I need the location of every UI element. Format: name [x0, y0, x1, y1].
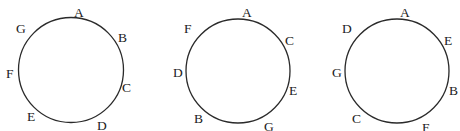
- point-label: E: [289, 83, 297, 98]
- point-label: G: [332, 65, 342, 80]
- point-label: C: [285, 33, 294, 48]
- point-label: F: [184, 21, 192, 36]
- point-label: D: [97, 118, 107, 131]
- circle-outline: [345, 19, 449, 123]
- point-label: F: [6, 66, 14, 81]
- circle-diagram-1: A B C D E F G: [6, 5, 131, 131]
- point-label: B: [449, 83, 458, 98]
- point-label: G: [16, 21, 26, 36]
- point-label: B: [194, 111, 203, 126]
- point-label: D: [173, 65, 183, 80]
- diagram-canvas: A B C D E F G A C E G B D F A E B F C G: [0, 0, 460, 131]
- point-label: G: [264, 119, 274, 131]
- point-label: C: [352, 111, 361, 126]
- circle-outline: [186, 19, 290, 123]
- point-label: B: [118, 30, 127, 45]
- point-label: F: [422, 120, 430, 131]
- circle-arrangements-figure: A B C D E F G A C E G B D F A E B F C G: [0, 0, 460, 131]
- circle-diagram-3: A E B F C G D: [332, 5, 458, 131]
- circle-diagram-2: A C E G B D F: [173, 5, 297, 131]
- point-label: D: [342, 21, 352, 36]
- point-label: A: [400, 5, 410, 20]
- point-label: E: [444, 33, 452, 48]
- point-label: E: [27, 109, 35, 124]
- circle-outline: [19, 18, 124, 123]
- point-label: A: [242, 5, 252, 20]
- point-label: A: [74, 5, 84, 20]
- point-label: C: [122, 80, 131, 95]
